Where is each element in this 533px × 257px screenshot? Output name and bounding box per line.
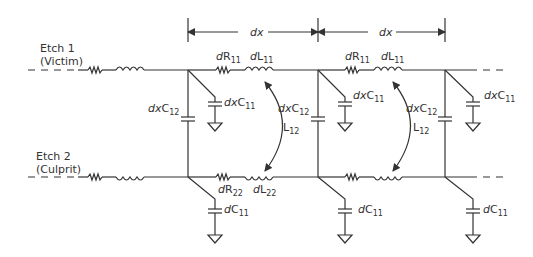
label-L12-a: L12: [283, 121, 299, 136]
node-1: [181, 70, 222, 243]
node-3: [438, 70, 480, 243]
etch2-name: Etch 2: [36, 150, 71, 163]
dimension-label-dx-1: dx: [250, 26, 264, 39]
label-dL11-b: dL11: [381, 50, 404, 65]
etch2-role: (Culprit): [36, 163, 81, 176]
inductor-icon: [374, 177, 402, 180]
label-dxC11-a: dxC11: [224, 96, 255, 111]
inductor-icon: [245, 177, 273, 180]
label-dC11-a: dC11: [224, 203, 249, 218]
etch1-line: [28, 67, 505, 73]
dimension-arrows: dx dx: [188, 18, 445, 42]
label-dL11-a: dL11: [250, 50, 273, 65]
resistor-icon: [345, 174, 359, 180]
etch1-role: (Victim): [40, 55, 83, 68]
ground-icon: [466, 235, 480, 243]
ground-icon: [208, 123, 222, 131]
resistor-icon: [216, 67, 230, 73]
resistor-icon: [216, 174, 230, 180]
label-dC11-c: dC11: [483, 203, 508, 218]
etch2-line: [28, 174, 505, 180]
dimension-label-dx-2: dx: [379, 26, 393, 39]
label-dxC11-b: dxC11: [353, 89, 384, 104]
etch1-name: Etch 1: [40, 42, 75, 55]
label-dR11-b: dR11: [345, 50, 370, 65]
inductor-icon: [374, 67, 402, 70]
node-2: [311, 70, 352, 243]
label-dxC12-a: dxC12: [148, 102, 179, 117]
inductor-icon: [245, 67, 273, 70]
ground-icon: [338, 235, 352, 243]
ground-icon: [338, 123, 352, 131]
resistor-icon: [88, 67, 102, 73]
mutual-inductance-arrow-1: [265, 82, 283, 171]
mutual-inductance-arrow-2: [393, 82, 411, 171]
inductor-icon: [116, 67, 144, 70]
label-L12-b: L12: [413, 121, 429, 136]
resistor-icon: [345, 67, 359, 73]
inductor-icon: [116, 177, 144, 180]
resistor-icon: [88, 174, 102, 180]
label-dxC12-c: dxC12: [406, 102, 437, 117]
ground-icon: [466, 123, 480, 131]
label-dR22: dR22: [218, 183, 243, 198]
ground-icon: [208, 235, 222, 243]
label-dxC12-b: dxC12: [278, 102, 309, 117]
label-dL22: dL22: [253, 183, 276, 198]
coupled-transmission-line-diagram: dx dx Etch 1 (Victim) Etch 2 (Culprit): [0, 0, 533, 257]
label-dxC11-c: dxC11: [484, 89, 515, 104]
label-dC11-b: dC11: [358, 203, 383, 218]
label-dR11-a: dR11: [216, 50, 241, 65]
